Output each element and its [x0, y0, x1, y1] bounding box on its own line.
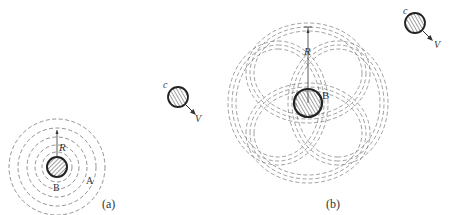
- central-body-b: [47, 157, 67, 177]
- diagram-canvas: R B A (a) c V: [0, 0, 450, 215]
- radius-label-a: R: [58, 141, 66, 153]
- body-label-b-a: B: [53, 182, 60, 193]
- body-label-b-b: B: [322, 89, 329, 101]
- body-label-c-2: c: [403, 5, 408, 16]
- panel-a: R B A (a): [9, 119, 115, 215]
- velocity-label-2: V: [434, 39, 442, 50]
- radius-arrow-icon: [56, 130, 59, 134]
- body-label-c-1: c: [163, 79, 168, 90]
- caption-a: (a): [102, 197, 115, 211]
- orbit-point-label-a: A: [86, 175, 94, 186]
- caption-b: (b): [326, 197, 340, 211]
- moving-body-c-1: c V: [163, 79, 203, 124]
- radius-label-b: R: [303, 45, 311, 57]
- velocity-label-1: V: [195, 113, 203, 124]
- moving-body-c-2: c V: [403, 5, 442, 50]
- panel-b: R B (b): [228, 23, 388, 211]
